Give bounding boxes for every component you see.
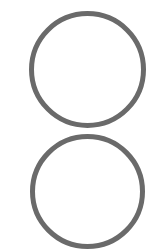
circle-bottom-shape	[30, 134, 145, 249]
circle-top-shape	[29, 11, 146, 128]
